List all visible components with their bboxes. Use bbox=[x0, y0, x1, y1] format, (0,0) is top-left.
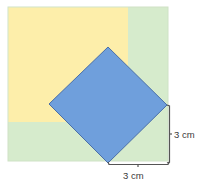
vertical-dimension-label: 3 cm bbox=[174, 129, 195, 140]
horizontal-dimension-bracket bbox=[108, 162, 170, 167]
geometry-diagram: 3 cm 3 cm bbox=[0, 0, 207, 185]
horizontal-dimension-label: 3 cm bbox=[123, 170, 144, 181]
